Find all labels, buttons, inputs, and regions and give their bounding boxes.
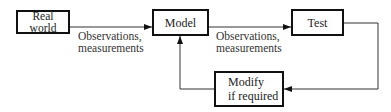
edge-label-line1: Observations, — [216, 30, 282, 42]
edge-label-realworld-to-model: Observations, measurements — [78, 30, 144, 54]
arrow-modify-to-model — [180, 36, 215, 89]
edge-label-line1: Observations, — [78, 30, 144, 42]
node-modify: Modify if required — [214, 71, 284, 107]
edge-label-model-to-test: Observations, measurements — [216, 30, 282, 54]
node-real-world-line2: world — [30, 22, 57, 34]
node-model-label: Model — [165, 16, 196, 30]
diagram-canvas: Real world Model Test Modify if required… — [0, 0, 391, 112]
node-real-world: Real world — [16, 10, 70, 34]
node-modify-line1: Modify — [228, 75, 278, 89]
node-modify-line2: if required — [228, 89, 278, 103]
node-model: Model — [152, 9, 209, 36]
edge-label-line2: measurements — [78, 42, 144, 54]
node-real-world-line1: Real — [30, 10, 57, 22]
node-test: Test — [291, 9, 344, 36]
edge-label-line2: measurements — [216, 42, 282, 54]
node-test-label: Test — [308, 16, 328, 30]
